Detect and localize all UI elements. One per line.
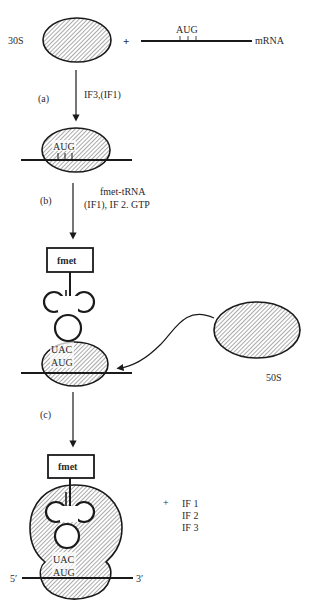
initiation-complex-30s: AUG — [21, 128, 132, 172]
label-codon: AUG — [51, 357, 73, 368]
released-factor-if2: IF 2 — [182, 510, 198, 521]
initiation-complex-30s-trna: fmet UAC AUG — [21, 248, 132, 386]
step-c-arrow: (c) — [40, 392, 73, 444]
released-factor-if1: IF 1 — [182, 498, 198, 509]
step-start: 30S + AUG mRNA — [8, 18, 285, 62]
label-fmet: fmet — [57, 255, 77, 266]
step-b-arrow: (b) fmet-tRNA (IF1), IF 2. GTP — [40, 183, 150, 236]
label-anticodon: UAC — [51, 344, 72, 355]
step-c-label: (c) — [40, 409, 51, 421]
trna-cloverleaf — [44, 292, 94, 341]
label-codon: AUG — [53, 567, 75, 578]
label-30s: 30S — [8, 35, 24, 46]
step-a-label: (a) — [38, 93, 49, 105]
step-b-factor-trna: fmet-tRNA — [100, 186, 146, 197]
plus-sign: + — [163, 497, 169, 508]
label-3-prime: 3′ — [136, 573, 143, 584]
large-subunit-joining: 50S — [120, 302, 300, 383]
joining-arrow — [120, 314, 214, 368]
ribosome-50s-subunit — [214, 302, 300, 358]
step-b-label: (b) — [40, 195, 52, 207]
label-50s: 50S — [266, 372, 282, 383]
step-b-factors: (IF1), IF 2. GTP — [84, 199, 150, 211]
plus-sign: + — [123, 35, 129, 47]
initiation-complex-70s: fmet UAC AUG 5′ 3′ — [10, 455, 143, 599]
label-5-prime: 5′ — [10, 573, 17, 584]
step-a-arrow: (a) IF3,(IF1) — [38, 70, 121, 118]
ribosome-30s-subunit — [43, 18, 111, 62]
label-aug-codon: AUG — [176, 24, 198, 35]
released-factor-if3: IF 3 — [182, 522, 198, 533]
label-anticodon: UAC — [53, 554, 74, 565]
step-a-factors: IF3,(IF1) — [84, 89, 121, 101]
label-aug-codon: AUG — [53, 141, 75, 152]
translation-initiation-diagram: 30S + AUG mRNA (a) IF3,(IF1) AUG (b) fme… — [0, 0, 315, 605]
label-mrna: mRNA — [255, 35, 285, 46]
label-fmet: fmet — [58, 461, 78, 472]
released-initiation-factors: + IF 1 IF 2 IF 3 — [163, 497, 198, 533]
